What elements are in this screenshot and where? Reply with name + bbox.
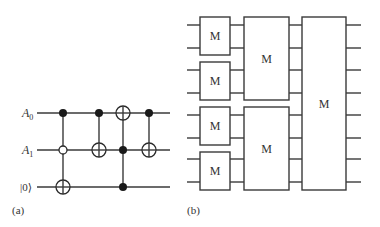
control-dot-icon: [145, 109, 153, 117]
stage-1: M M M M: [200, 17, 230, 190]
stage-2: M M: [244, 17, 289, 190]
target-xor-icon: [116, 106, 130, 120]
m-block: M: [244, 17, 289, 100]
svg-text:M: M: [319, 97, 330, 111]
svg-text:M: M: [210, 164, 221, 178]
panel-a-circuit: A0 A1 |0⟩: [12, 106, 170, 217]
gate-toffoli-1: [56, 109, 70, 194]
m-block: M: [302, 17, 346, 190]
stage2-to-stage3-wires: [289, 25, 302, 182]
svg-text:M: M: [261, 52, 272, 66]
m-block: M: [200, 62, 230, 100]
figure: A0 A1 |0⟩: [0, 0, 380, 227]
target-xor-icon: [56, 180, 70, 194]
target-xor-icon: [92, 143, 106, 157]
control-dot-icon: [119, 183, 127, 191]
svg-text:M: M: [261, 142, 272, 156]
input-wires: [187, 25, 200, 182]
control-dot-icon: [59, 109, 67, 117]
stage-3: M: [302, 17, 346, 190]
m-block: M: [244, 107, 289, 190]
gate-cnot-2: [92, 109, 106, 157]
gate-cnot-4: [142, 109, 156, 157]
m-block: M: [200, 107, 230, 145]
gate-toffoli-3: [116, 106, 130, 191]
control-dot-icon: [95, 109, 103, 117]
qubit-label-a0: A0: [21, 106, 33, 122]
control-dot-icon: [119, 146, 127, 154]
qubit-label-ancilla: |0⟩: [20, 181, 32, 193]
panel-b-network: M M M M M M: [187, 17, 361, 217]
qubit-label-a1: A1: [21, 143, 33, 159]
svg-text:M: M: [210, 119, 221, 133]
svg-text:M: M: [210, 29, 221, 43]
svg-text:M: M: [210, 74, 221, 88]
m-block: M: [200, 17, 230, 55]
stage1-to-stage2-wires: [230, 25, 244, 182]
panel-b-caption: (b): [187, 204, 200, 217]
open-control-icon: [59, 146, 67, 154]
m-block: M: [200, 152, 230, 190]
output-wires: [346, 25, 361, 182]
panel-a-caption: (a): [12, 204, 25, 217]
target-xor-icon: [142, 143, 156, 157]
